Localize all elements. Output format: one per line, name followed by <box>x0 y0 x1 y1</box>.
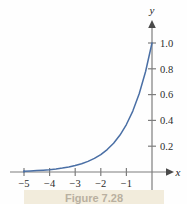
y-axis-arrow-icon <box>148 20 156 28</box>
x-tick-label-neg4: −4 <box>44 178 56 189</box>
figure-caption: Figure 7.28 <box>24 193 164 204</box>
y-tick-label-02: 0.2 <box>160 141 173 152</box>
y-tick-label-08: 0.8 <box>160 64 173 75</box>
exponential-graph: −5 −4 −3 −2 −1 0.2 0.4 0.6 0.8 1.0 x y <box>0 0 187 204</box>
x-axis-arrow-icon <box>166 168 174 176</box>
x-tick-label-neg2: −2 <box>95 178 106 189</box>
x-tick-label-neg5: −5 <box>18 178 29 189</box>
x-axis-label: x <box>175 166 181 178</box>
y-tick-label-06: 0.6 <box>160 89 173 100</box>
y-axis-label: y <box>149 4 155 16</box>
exponential-curve <box>24 43 152 171</box>
x-tick-label-neg3: −3 <box>70 178 81 189</box>
x-tick-label-neg1: −1 <box>121 178 132 189</box>
y-tick-label-10: 1.0 <box>160 38 173 49</box>
figure-container: −5 −4 −3 −2 −1 0.2 0.4 0.6 0.8 1.0 x y F… <box>0 0 187 204</box>
y-tick-label-04: 0.4 <box>160 115 174 126</box>
